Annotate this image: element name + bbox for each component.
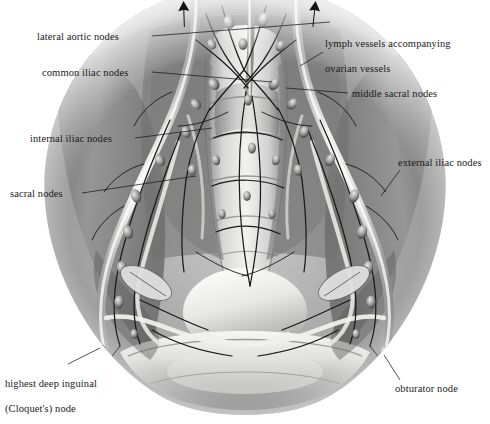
leader-obturator-node [384, 355, 400, 380]
label-sacral-nodes: sacral nodes [10, 188, 63, 201]
label-internal-iliac-nodes: internal iliac nodes [30, 133, 112, 146]
label-lateral-aortic-nodes: lateral aortic nodes [37, 31, 119, 44]
label-common-iliac-nodes: common iliac nodes [42, 67, 128, 80]
label-lymph-vessels-ovarian: lymph vessels accompanying ovarian vesse… [325, 25, 451, 75]
label-obturator-node: obturator node [395, 383, 458, 396]
leader-highest-deep-inguinal-node [68, 348, 100, 364]
label-line-2: (Cloquet's) node [5, 403, 76, 414]
label-highest-deep-inguinal-node: highest deep inguinal (Cloquet's) node [5, 365, 97, 415]
label-line-1: lymph vessels accompanying [325, 38, 451, 49]
label-line-2: ovarian vessels [325, 63, 390, 74]
label-external-iliac-nodes: external iliac nodes [398, 157, 482, 170]
anatomical-figure: lateral aortic nodes common iliac nodes … [0, 0, 490, 424]
label-line-1: highest deep inguinal [5, 378, 97, 389]
label-middle-sacral-nodes: middle sacral nodes [352, 88, 437, 101]
